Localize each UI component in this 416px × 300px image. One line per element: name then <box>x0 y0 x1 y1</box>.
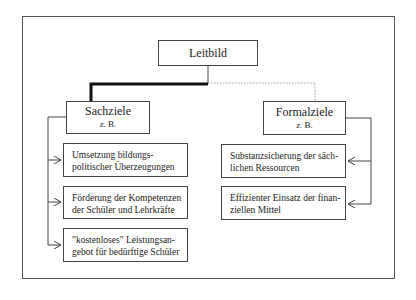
leitbild-label: Leitbild <box>189 47 227 60</box>
formalziele-box: Formalziele z. B. <box>263 101 346 135</box>
formalziele-sublabel: z. B. <box>296 120 313 131</box>
sachziele-sublabel: z. B. <box>100 119 117 130</box>
item-line: der Schüler und Lehrkräfte <box>72 204 187 216</box>
item-line: politischer Überzeugungen <box>72 161 187 173</box>
formalziel-item-1: Substanzsicherung der säch- lichen Resso… <box>221 144 346 178</box>
item-line: Substanzsicherung der säch- <box>230 150 345 162</box>
leitbild-box: Leitbild <box>158 40 258 66</box>
sachziel-item-2: Förderung der Kompetenzen der Schüler un… <box>63 186 188 219</box>
item-line: Förderung der Kompetenzen <box>72 192 187 204</box>
item-line: lichen Ressourcen <box>230 162 345 174</box>
formalziel-item-2: Effizienter Einsatz der finan- ziellen M… <box>221 186 346 220</box>
sachziele-label: Sachziele <box>85 105 131 118</box>
item-line: "kostenloses" Leistungsan- <box>72 234 187 246</box>
item-line: Effizienter Einsatz der finan- <box>230 192 345 204</box>
item-line: ziellen Mittel <box>230 204 345 216</box>
sachziele-box: Sachziele z. B. <box>66 101 150 134</box>
item-line: gebot für bedürftige Schüler <box>72 246 187 258</box>
sachziel-item-3: "kostenloses" Leistungsan- gebot für bed… <box>63 228 188 262</box>
formalziele-label: Formalziele <box>276 106 333 119</box>
item-line: Umsetzung bildungs- <box>72 149 187 161</box>
sachziel-item-1: Umsetzung bildungs- politischer Überzeug… <box>63 143 188 177</box>
